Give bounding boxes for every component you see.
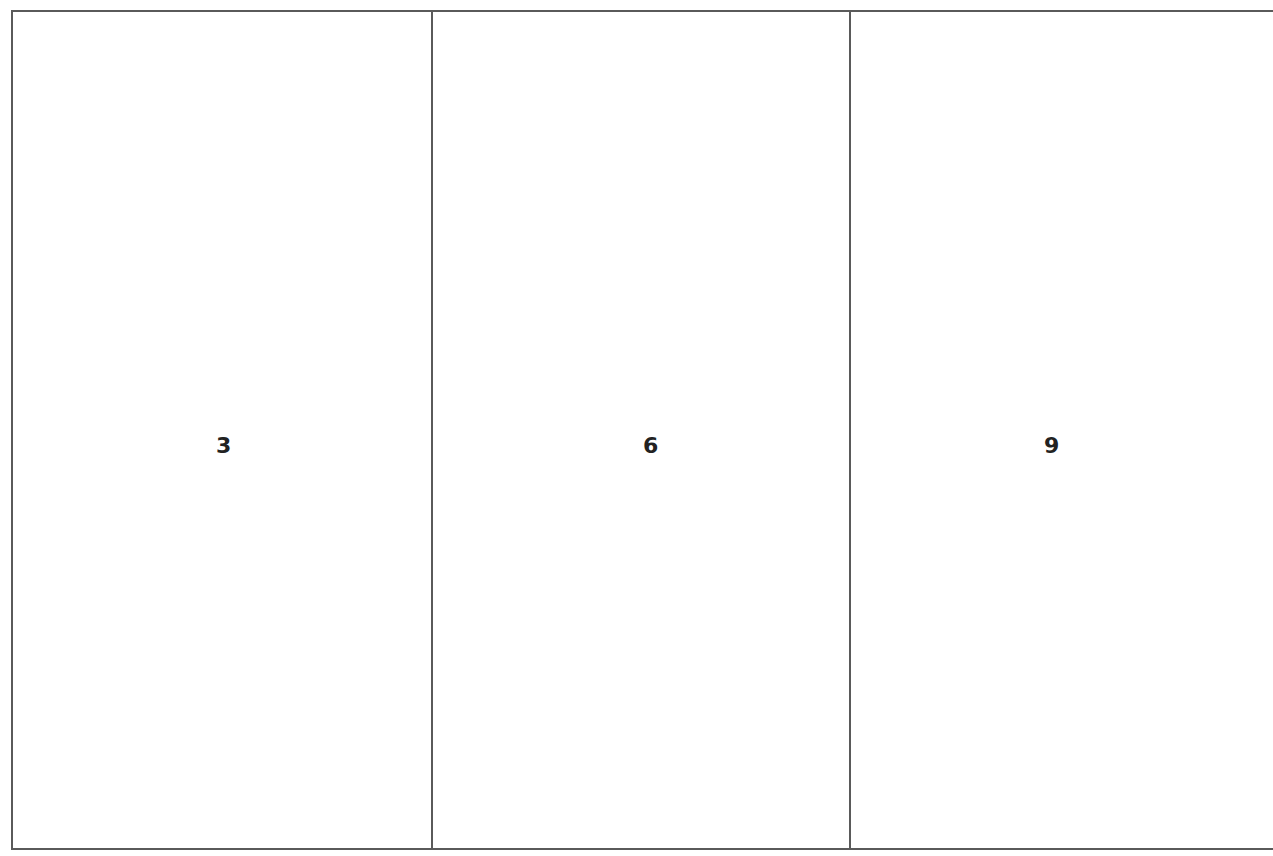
three-panel-frame: 3 6 9 — [11, 10, 1273, 850]
panel-right: 9 — [851, 12, 1273, 848]
panel-label: 6 — [643, 433, 658, 458]
panel-label: 3 — [216, 433, 231, 458]
panel-middle: 6 — [433, 12, 851, 848]
panel-left: 3 — [13, 12, 433, 848]
panel-label: 9 — [1044, 433, 1059, 458]
